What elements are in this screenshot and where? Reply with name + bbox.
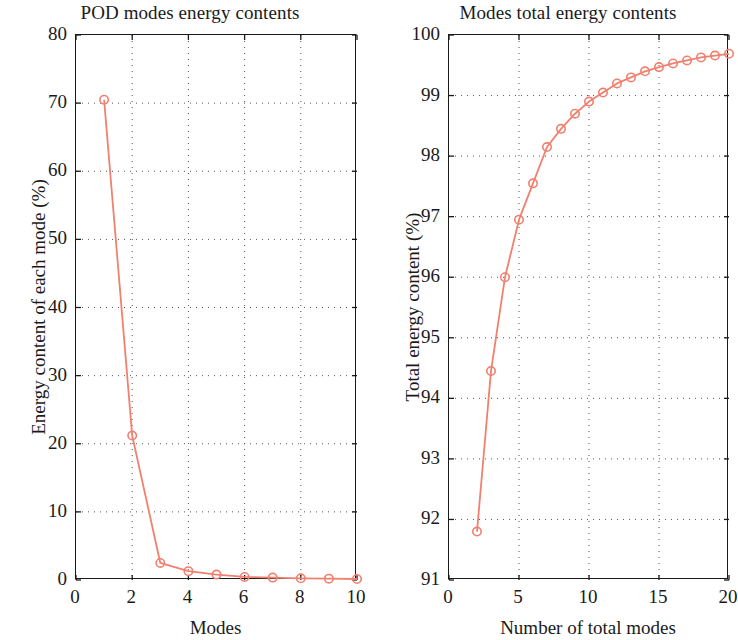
y-tick-label: 30 <box>19 364 67 386</box>
figure-two-line-charts: POD modes energy contents Energy content… <box>0 0 738 640</box>
y-tick-label: 94 <box>392 386 440 408</box>
x-tick-label: 6 <box>239 586 249 608</box>
y-tick-label: 99 <box>392 84 440 106</box>
chart-panel-left: POD modes energy contents Energy content… <box>0 0 390 640</box>
x-axis-label-left: Modes <box>190 617 242 639</box>
y-tick-label: 10 <box>19 500 67 522</box>
y-tick-label: 50 <box>19 227 67 249</box>
y-tick-label: 80 <box>19 23 67 45</box>
y-tick-label: 96 <box>392 265 440 287</box>
plot-svg-left <box>76 35 357 580</box>
y-tick-label: 97 <box>392 205 440 227</box>
y-tick-label: 92 <box>392 507 440 529</box>
y-tick-label: 95 <box>392 326 440 348</box>
plot-svg-right <box>449 35 729 580</box>
plot-area-left <box>75 34 356 579</box>
y-tick-label: 60 <box>19 159 67 181</box>
x-tick-label: 0 <box>443 586 453 608</box>
x-axis-label-right: Number of total modes <box>500 617 676 639</box>
y-axis-label-right: Total energy content (%) <box>402 212 424 401</box>
plot-area-right <box>448 34 728 579</box>
x-tick-label: 2 <box>126 586 136 608</box>
x-tick-label: 15 <box>649 586 668 608</box>
y-tick-label: 70 <box>19 91 67 113</box>
x-tick-label: 8 <box>295 586 305 608</box>
y-tick-label: 40 <box>19 296 67 318</box>
x-tick-label: 10 <box>579 586 598 608</box>
y-tick-label: 93 <box>392 447 440 469</box>
x-tick-label: 20 <box>719 586 738 608</box>
chart-title-right: Modes total energy contents <box>408 2 728 24</box>
y-tick-label: 98 <box>392 144 440 166</box>
y-tick-label: 20 <box>19 432 67 454</box>
x-tick-label: 0 <box>70 586 80 608</box>
y-tick-label: 0 <box>19 568 67 590</box>
y-tick-label: 100 <box>392 23 440 45</box>
x-tick-label: 10 <box>347 586 366 608</box>
x-tick-label: 5 <box>513 586 523 608</box>
data-line <box>477 54 729 532</box>
y-tick-label: 91 <box>392 568 440 590</box>
chart-title-left: POD modes energy contents <box>20 2 360 24</box>
x-tick-label: 4 <box>183 586 193 608</box>
chart-panel-right: Modes total energy contents Total energy… <box>390 0 738 640</box>
